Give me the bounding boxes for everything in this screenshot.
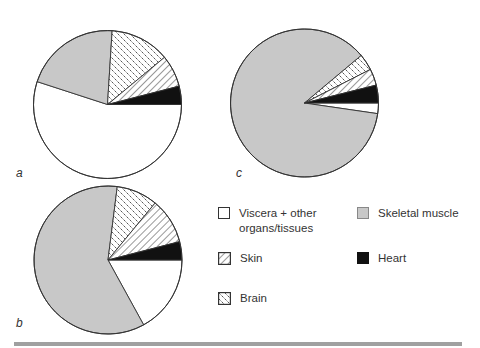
legend-label: Viscera + other organs/tissues bbox=[239, 206, 316, 236]
brain-swatch-icon bbox=[218, 292, 231, 305]
legend-item-skin: Skin bbox=[218, 251, 262, 266]
legend-item-brain: Brain bbox=[218, 291, 267, 306]
legend-item-viscera: Viscera + other organs/tissues bbox=[218, 206, 316, 236]
panel-label-b: b bbox=[16, 316, 23, 330]
pie-chart-c bbox=[231, 29, 379, 177]
pie-chart-a bbox=[34, 31, 182, 179]
legend-item-heart: Heart bbox=[357, 251, 406, 266]
legend-label: Heart bbox=[378, 251, 406, 266]
skin-swatch-icon bbox=[218, 252, 231, 265]
panel-label-a: a bbox=[16, 166, 23, 180]
heart-swatch-icon bbox=[357, 252, 369, 264]
panel-label-c: c bbox=[236, 166, 242, 180]
figure: a b c Viscera + other organs/tissues Ske… bbox=[0, 0, 480, 348]
viscera-swatch-icon bbox=[218, 207, 230, 219]
legend-label: Skin bbox=[240, 251, 262, 266]
legend-label: Brain bbox=[240, 291, 267, 306]
skeletal-muscle-swatch-icon bbox=[357, 207, 369, 219]
legend-item-skeletal-muscle: Skeletal muscle bbox=[357, 206, 459, 221]
legend-label: Skeletal muscle bbox=[378, 206, 459, 221]
pie-chart-b bbox=[34, 186, 182, 334]
bottom-divider bbox=[14, 342, 462, 346]
